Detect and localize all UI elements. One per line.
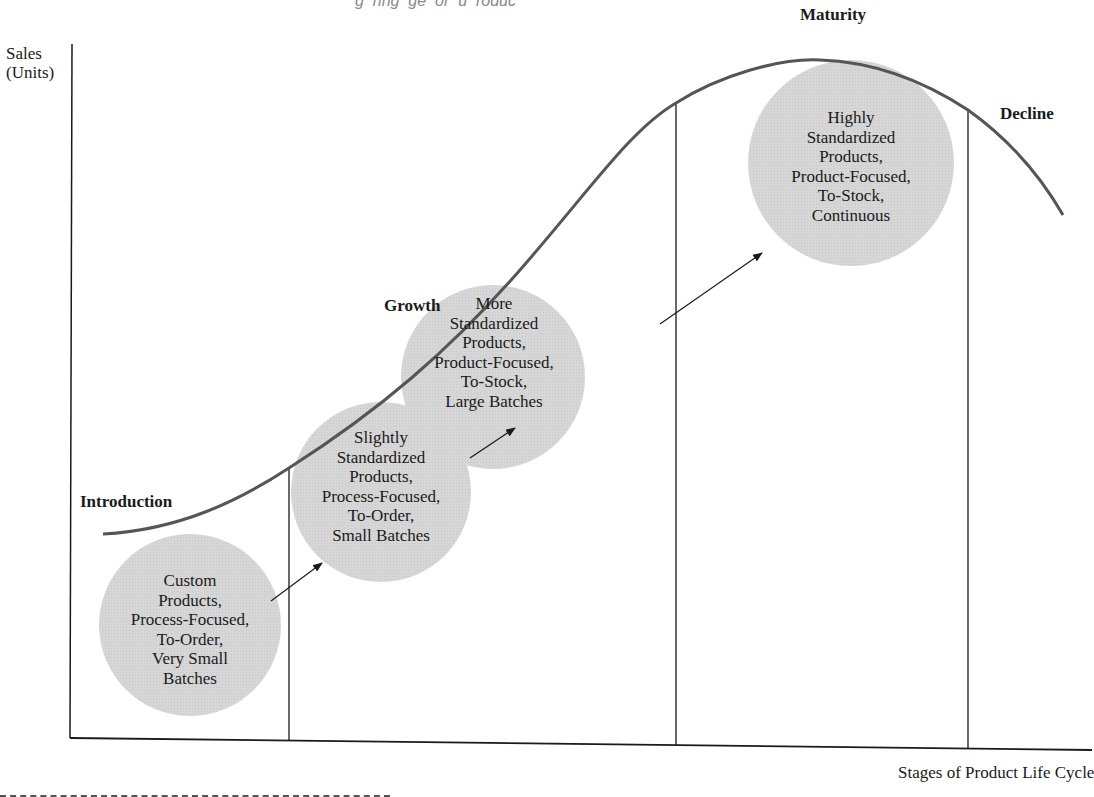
bubble-line: Products, <box>768 147 934 167</box>
bubble-line: Products, <box>110 591 270 611</box>
stage-label-decline: Decline <box>1000 104 1054 124</box>
arrow-1-to-2 <box>271 563 322 601</box>
bubble-line: Products, <box>300 467 462 487</box>
bubble-line: Batches <box>110 669 270 689</box>
bubble-line: Standardized <box>768 128 934 148</box>
bubble-line: Process-Focused, <box>300 487 462 507</box>
y-axis-label: Sales (Units) <box>6 44 54 82</box>
bubble-text-growth-late: More Standardized Products, Product-Focu… <box>412 294 576 411</box>
bubble-text-maturity: Highly Standardized Products, Product-Fo… <box>768 108 934 225</box>
bubble-line: To-Stock, <box>768 186 934 206</box>
y-axis <box>70 44 72 738</box>
bubble-text-growth-early: Slightly Standardized Products, Process-… <box>300 428 462 545</box>
bubble-line: Process-Focused, <box>110 610 270 630</box>
bubble-line: To-Stock, <box>412 372 576 392</box>
stage-label-introduction: Introduction <box>80 492 172 512</box>
bubble-line: Custom <box>110 571 270 591</box>
y-axis-label-line1: Sales <box>6 44 54 63</box>
x-axis <box>70 738 1092 750</box>
bubble-text-introduction: Custom Products, Process-Focused, To-Ord… <box>110 571 270 688</box>
bubble-line: Highly <box>768 108 934 128</box>
stage-label-maturity: Maturity <box>800 5 866 25</box>
bubble-line: To-Order, <box>110 630 270 650</box>
y-axis-label-line2: (Units) <box>6 63 54 82</box>
bubble-line: Standardized <box>412 314 576 334</box>
bubble-line: Slightly <box>300 428 462 448</box>
bubble-line: More <box>412 294 576 314</box>
arrow-3-to-4 <box>660 253 762 324</box>
bubble-line: Very Small <box>110 649 270 669</box>
x-axis-label: Stages of Product Life Cycle <box>898 763 1094 782</box>
bubble-line: To-Order, <box>300 506 462 526</box>
bubble-line: Continuous <box>768 206 934 226</box>
bubble-line: Large Batches <box>412 392 576 412</box>
bubble-line: Standardized <box>300 448 462 468</box>
bubble-line: Small Batches <box>300 526 462 546</box>
bubble-line: Products, <box>412 333 576 353</box>
bubble-line: Product-Focused, <box>412 353 576 373</box>
bubble-line: Product-Focused, <box>768 167 934 187</box>
